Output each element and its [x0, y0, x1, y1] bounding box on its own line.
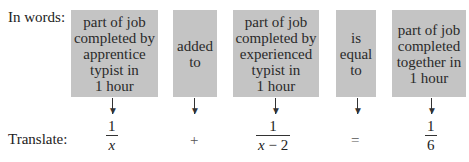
word-box-experienced: part of job completed by experienced typ…: [233, 10, 319, 97]
numerator: 1: [267, 118, 279, 135]
box-line: part of job: [74, 14, 155, 30]
word-box-together: part of job completed together in 1 hour: [392, 10, 466, 97]
box-line: is: [340, 30, 372, 46]
down-arrow-icon: ▼: [271, 98, 281, 116]
box-line: 1 hour: [397, 70, 462, 86]
box-line: part of job: [397, 22, 462, 38]
plus-operator: +: [190, 132, 198, 149]
fraction-one-over-x: 1 x: [106, 118, 118, 154]
box-line: added: [177, 38, 213, 54]
fraction-one-over-six: 1 6: [425, 118, 437, 154]
box-line: completed: [397, 38, 462, 54]
box-line: experienced: [235, 46, 316, 62]
box-line: part of job: [235, 14, 316, 30]
in-words-label: In words:: [8, 9, 65, 26]
box-line: to: [340, 62, 372, 78]
denominator: x: [106, 136, 117, 154]
box-line: apprentice: [74, 46, 155, 62]
down-arrow-icon: ▼: [353, 98, 363, 116]
fraction-one-over-x-minus-2: 1 x − 2: [256, 118, 290, 154]
box-line: typist in: [74, 62, 155, 78]
numerator: 1: [425, 118, 437, 135]
numerator: 1: [106, 118, 118, 135]
denominator: x − 2: [256, 136, 290, 154]
box-line: 1 hour: [235, 78, 316, 94]
box-line: completed by: [74, 30, 155, 46]
denominator-rest: − 2: [265, 137, 288, 153]
box-line: to: [177, 54, 213, 70]
box-line: equal: [340, 46, 372, 62]
down-arrow-icon: ▼: [427, 98, 437, 116]
word-box-apprentice: part of job completed by apprentice typi…: [71, 10, 158, 97]
word-box-added-to: added to: [173, 10, 217, 97]
denominator: 6: [425, 136, 437, 154]
word-box-is-equal-to: is equal to: [336, 10, 376, 97]
down-arrow-icon: ▼: [190, 98, 200, 116]
box-line: typist in: [235, 62, 316, 78]
denominator-var: x: [258, 137, 265, 153]
equals-operator: =: [351, 132, 359, 149]
translate-label: Translate:: [8, 131, 67, 148]
down-arrow-icon: ▼: [108, 98, 118, 116]
box-line: completed by: [235, 30, 316, 46]
box-line: together in: [397, 54, 462, 70]
box-line: 1 hour: [74, 78, 155, 94]
